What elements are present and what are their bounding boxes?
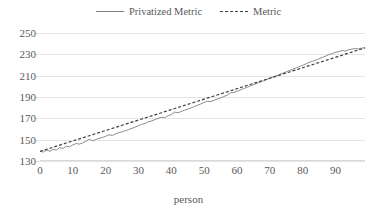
x-axis-tick-label: 10: [58, 164, 88, 176]
x-axis-tick-label: 30: [123, 164, 153, 176]
y-axis-tick-mark: [36, 76, 39, 77]
y-axis-tick-label: 150: [0, 134, 36, 145]
chart-legend: Privatized Metric Metric: [0, 0, 377, 22]
y-axis-tick-label: 230: [0, 49, 36, 60]
y-axis-tick-label: 250: [0, 28, 36, 39]
legend-solid-line-icon: [96, 7, 124, 16]
x-axis-tick-label: 90: [320, 164, 350, 176]
y-axis-tick-label: 190: [0, 92, 36, 103]
y-axis-tick-mark: [36, 118, 39, 119]
x-axis-tick-label: 60: [222, 164, 252, 176]
plot-area: [40, 33, 365, 161]
y-axis-tick-label: 210: [0, 70, 36, 81]
legend-label-metric: Metric: [253, 6, 281, 17]
x-axis-tick-label: 40: [156, 164, 186, 176]
series-layer: [40, 33, 365, 161]
y-axis-tick-mark: [36, 97, 39, 98]
y-axis-tick-mark: [36, 140, 39, 141]
line-chart: Privatized Metric Metric 250230210190170…: [0, 0, 377, 219]
y-axis-labels: 250230210190170150130: [0, 33, 36, 161]
gridline: [40, 161, 365, 162]
x-axis-tick-label: 50: [189, 164, 219, 176]
y-axis-tick-label: 170: [0, 113, 36, 124]
x-axis-tick-label: 0: [25, 164, 55, 176]
legend-label-privatized-metric: Privatized Metric: [129, 6, 202, 17]
legend-dashed-line-icon: [220, 7, 248, 16]
y-axis-tick-mark: [36, 33, 39, 34]
y-axis-tick-mark: [36, 54, 39, 55]
legend-item-privatized-metric[interactable]: Privatized Metric: [96, 6, 202, 17]
legend-item-metric[interactable]: Metric: [220, 6, 281, 17]
y-axis-tick-mark: [36, 161, 39, 162]
x-axis-tick-label: 20: [91, 164, 121, 176]
x-axis-tick-label: 80: [288, 164, 318, 176]
x-axis-title: person: [0, 193, 377, 205]
x-axis-labels: 0102030405060708090: [40, 164, 365, 178]
series-line: [40, 48, 365, 151]
x-axis-tick-label: 70: [255, 164, 285, 176]
